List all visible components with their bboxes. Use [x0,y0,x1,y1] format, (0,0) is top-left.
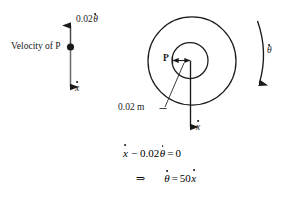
center-xdot-label: x [196,123,200,133]
left-top-coefficient: 0.02 [76,14,93,24]
eq1-minus-sign: − [131,147,137,159]
radius-dimension-arrow [173,57,190,65]
accent-dot-icon [197,120,199,122]
left-bottom-label: x [75,84,79,94]
accent-dot-icon [95,13,97,15]
implies-symbol: ⇒ [136,172,145,185]
eq1-coefficient: 0.02 [140,147,159,159]
disk-group [148,17,236,105]
left-top-label: 0.02θ [76,15,98,25]
eq2-term-xdot: x [191,172,196,184]
figure-canvas: 0.02θ Velocity of P x P 0.02 m θ x x − 0… [0,0,282,207]
eq1-term-xdot: x [123,147,128,159]
radius-measure-label: 0.02 m [118,103,144,113]
accent-dot-icon [268,44,270,46]
theta-dot-variable: θ [267,46,272,56]
accent-dot-icon [193,169,195,171]
eq1-equals-sign: = [167,147,173,159]
accent-dot-icon [166,170,168,172]
eq1-rhs: 0 [175,147,181,159]
point-p-label: P [163,54,169,64]
eq1-term-thetadot: θ [160,147,165,159]
left-velocity-arrow-group [67,26,74,88]
left-top-variable: θ [93,15,98,25]
left-bottom-variable: x [75,84,79,94]
accent-dot-icon [125,144,127,146]
velocity-of-p-caption: Velocity of P [11,42,61,52]
theta-dot-curved-arrow [258,21,264,83]
accent-dot-icon [162,145,164,147]
point-p-marker-left [67,43,74,50]
accent-dot-icon [76,81,78,83]
outer-circle [148,17,236,105]
eq2-coefficient: 50 [180,172,191,184]
equation-line-1: x − 0.02 θ = 0 [123,147,181,159]
center-xdot-variable: x [196,123,200,133]
equation-line-2: ⇒ θ = 50 x [136,172,196,185]
theta-dot-label: θ [267,46,272,56]
eq2-term-thetadot: θ [164,172,169,184]
eq2-equals-sign: = [172,172,178,184]
